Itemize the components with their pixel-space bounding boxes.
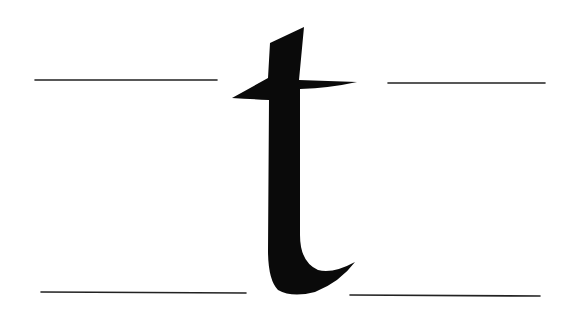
letter-figure xyxy=(0,0,577,315)
guide-line-bottom-left xyxy=(41,292,246,293)
letter-t-glyph xyxy=(232,27,357,295)
guide-line-bottom-right xyxy=(350,295,540,296)
